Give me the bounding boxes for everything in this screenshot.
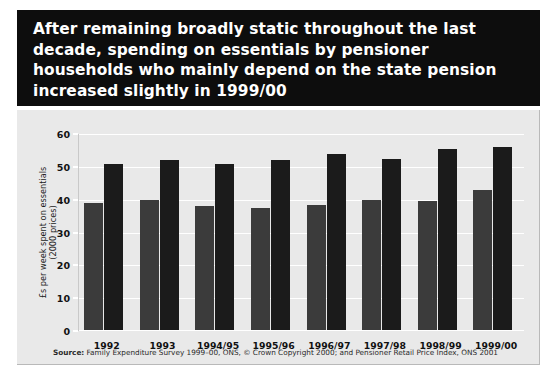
bar-group: 1993 [135, 134, 191, 331]
bar [160, 160, 179, 331]
bar-group: 1998/99 [413, 134, 469, 331]
bar [327, 154, 346, 331]
bar [104, 164, 123, 331]
source-prefix: Source: [53, 348, 84, 357]
y-tick-mark [73, 232, 78, 234]
y-tick-mark [73, 297, 78, 299]
bar [438, 149, 457, 331]
page-title: After remaining broadly static throughou… [33, 19, 526, 101]
y-axis-title: £s per week spent on essentials (2000 pr… [37, 134, 59, 331]
y-tick-mark [73, 199, 78, 201]
y-tick-label: 30 [57, 227, 70, 238]
chart-panel: Mainly dependent on the state retirement… [17, 110, 540, 365]
x-axis-baseline [79, 330, 524, 331]
y-tick-label: 0 [63, 326, 70, 337]
y-tick-label: 10 [57, 293, 70, 304]
title-banner: After remaining broadly static throughou… [17, 10, 540, 106]
y-tick-mark [73, 264, 78, 266]
bar-group: 1999/00 [468, 134, 524, 331]
bar [195, 206, 214, 331]
bar [493, 147, 512, 331]
bar [307, 205, 326, 331]
y-tick-label: 20 [57, 260, 70, 271]
plot-area: 0102030405060 199219931994/951995/961996… [79, 134, 524, 331]
y-tick-label: 60 [57, 129, 70, 140]
figure: After remaining broadly static throughou… [0, 0, 557, 375]
bar [418, 201, 437, 331]
y-tick-mark [73, 330, 78, 332]
bar [251, 208, 270, 331]
bar [84, 203, 103, 331]
bar [382, 159, 401, 331]
bar-group: 1992 [79, 134, 135, 331]
bar-group: 1994/95 [190, 134, 246, 331]
bar [473, 190, 492, 331]
y-tick-label: 50 [57, 161, 70, 172]
bar-group: 1997/98 [357, 134, 413, 331]
bar [271, 160, 290, 331]
source-note: Source: Family Expenditure Survey 1999–0… [53, 348, 498, 357]
source-text: Family Expenditure Survey 1999–00, ONS, … [87, 348, 498, 357]
y-tick-label: 40 [57, 194, 70, 205]
bar-group: 1995/96 [246, 134, 302, 331]
y-tick-mark [73, 166, 78, 168]
bar-group: 1996/97 [302, 134, 358, 331]
y-tick-mark [73, 133, 78, 135]
bar [140, 200, 159, 331]
bar [215, 164, 234, 331]
bar [362, 200, 381, 331]
